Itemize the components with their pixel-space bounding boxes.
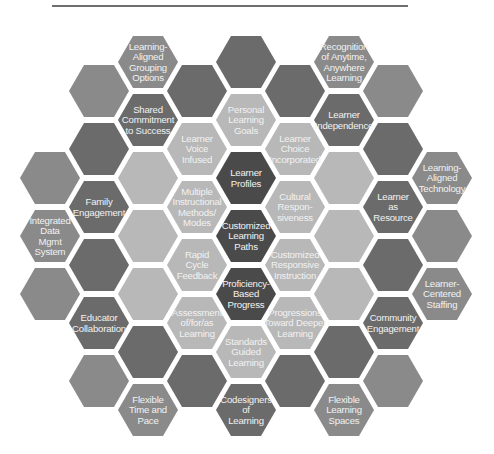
hex-cell-blank [363,239,423,291]
hexagon-shape [118,268,178,320]
hexagon-shape [412,210,472,262]
hex-label-line: Progressions [268,307,322,318]
hex-label-line: Spaces [329,415,360,426]
hex-cell-codesigners-of-learning: CodesignersofLearning [216,384,276,436]
hex-cell-multiple-instructional-methods-modes: MultipleInstructionalMethods/Modes [167,181,227,233]
hex-label-line: Cultural [279,191,311,202]
hex-cell-cultural-respon-siveness: CulturalRespon-siveness [265,181,325,233]
hex-label-line: Learning [228,230,264,241]
hex-label-line: Toward Deeper [264,317,327,328]
hex-cell-recognition-of-anytime-anywhere-learning: Recognitionof Anytime,AnywhereLearning [314,36,374,88]
hex-label-line: Pace [137,415,158,426]
hex-cell-blank [363,123,423,175]
hex-label-line: Aligned [133,51,164,62]
hexagon-shape [118,210,178,262]
hex-cell-family-engagement: FamilyEngagement [69,181,129,233]
hex-cell-blank [118,268,178,320]
hex-label-line: Recognition [320,41,368,52]
hex-cell-proficiency-based-progress: Proficiency-BasedProgress [216,268,276,320]
hex-label-line: System [35,246,66,257]
hex-label-line: Profiles [231,178,262,189]
hex-label-line: Incorporated [269,154,320,165]
hex-cell-educator-collaboration: EducatorCollaboration [69,297,129,349]
hexagon-shape [314,268,374,320]
hex-label-line: Codesigners [220,394,272,405]
hex-label-line: Assessment [172,307,223,318]
hex-cell-learner-centered-staffing: Learner-CenteredStaffing [412,268,472,320]
hexagon-shape [363,355,423,407]
hex-label-line: Methods/ [178,207,216,218]
hex-label-line: Shared [133,104,163,115]
hex-label-line: Resource [373,212,412,223]
hex-label-line: Learner [181,133,214,144]
hex-label-line: Guided [231,346,261,357]
hex-label-line: Rapid [185,249,209,260]
hex-label-line: Personal [228,104,264,115]
hexagon-shape [314,326,374,378]
hex-cell-integrated-data-mgmt-system: IntegratedDataMgmtSystem [20,210,80,262]
hex-cell-learner-voice-infused: LearnerVoiceInfused [167,123,227,175]
hexagon-shape [314,210,374,262]
hex-cell-blank [216,36,276,88]
hexagon-shape [363,65,423,117]
hex-label-line: siveness [277,212,313,223]
hex-label-line: Commitment [122,114,175,125]
hex-label-line: Respon- [278,201,313,212]
hex-cell-blank [118,326,178,378]
hex-label-line: Based [233,288,259,299]
hex-cell-rapid-cycle-feedback: RapidCycleFeedback [167,239,227,291]
hex-label-line: Voice [186,143,208,154]
hex-cell-assessment-of-for-as-learning: Assessmentof/for/asLearning [167,297,227,349]
hex-label-line: Learning- [129,41,168,52]
hex-label-line: Grouping [129,62,167,73]
hex-label-line: Mgmt [38,236,62,247]
hex-cell-blank [265,355,325,407]
hex-label-line: Learner- [425,278,460,289]
hexagon-diagram: IntegratedDataMgmtSystemFamilyEngagement… [0,0,494,454]
hex-cell-blank [69,239,129,291]
hex-cell-learner-profiles: LearnerProfiles [216,152,276,204]
hex-label-line: Data [40,225,60,236]
hex-cell-blank [69,355,129,407]
hex-label-line: to Success [126,125,171,136]
hex-cell-learning-aligned-technology: Learning-AlignedTechnology [412,152,472,204]
hex-cell-learner-as-resource: LearnerasResource [363,181,423,233]
hex-cell-blank [314,326,374,378]
hex-cell-blank [20,268,80,320]
hexagon-shape [69,355,129,407]
hex-label-line: Instructional [172,196,221,207]
hex-label-line: Learning [326,404,362,415]
hex-cell-community-engagement: CommunityEngagement [363,297,423,349]
hex-label-line: Multiple [181,186,212,197]
hex-label-line: Learner [279,133,312,144]
hexagon-shape [69,239,129,291]
hex-cell-progressions-toward-deeper-learning: ProgressionsToward DeeperLearning [264,297,327,349]
hex-cell-learning-aligned-grouping-options: Learning-AlignedGroupingOptions [118,36,178,88]
hex-label-line: Independence [315,120,373,131]
hex-label-line: Community [370,312,417,323]
hex-label-line: Aligned [427,172,458,183]
hex-label-line: of/for/as [181,317,214,328]
hexagon-shape [69,123,129,175]
hex-cell-blank [20,152,80,204]
hex-label-line: Collaboration [72,323,126,334]
hexagon-shape [314,152,374,204]
hexagon-shape [167,65,227,117]
hex-label-line: Feedback [177,270,218,281]
hex-cell-learner-independence: LearnerIndependence [314,94,374,146]
hex-label-line: Engagement [367,323,420,334]
hex-cell-personal-learning-goals: PersonalLearningGoals [216,94,276,146]
hexagon-shape [118,326,178,378]
hex-label-line: Educator [81,312,119,323]
hex-label-line: Family [85,196,112,207]
hex-cell-blank [314,210,374,262]
hex-label-line: Choice [281,143,310,154]
hexagon-shape [69,65,129,117]
hex-label-line: of [242,404,250,415]
hex-label-line: Engagement [73,207,126,218]
hex-label-line: Learner [377,191,410,202]
hexagon-shape [363,123,423,175]
hex-label-line: Learning [228,357,264,368]
hex-label-line: Options [132,72,164,83]
hex-label-line: Centered [423,288,461,299]
